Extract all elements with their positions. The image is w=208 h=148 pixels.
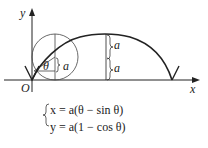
theta-label: θ xyxy=(43,59,49,73)
equation-y: y = a(1 − cos θ) xyxy=(50,120,126,134)
x-axis-label: x xyxy=(189,82,196,96)
parametric-equations: x = a(θ − sin θ) y = a(1 − cos θ) xyxy=(43,103,126,134)
equation-x: x = a(θ − sin θ) xyxy=(50,103,123,117)
cycloid-diagram: y x O θ a a a x = a(θ − sin θ) y = a(1 −… xyxy=(0,0,208,148)
brace-upper xyxy=(107,35,113,59)
upper-height-label: a xyxy=(114,38,120,52)
equation-brace xyxy=(43,104,49,126)
brace-small xyxy=(56,58,60,72)
origin-label: O xyxy=(21,81,30,95)
radius-label: a xyxy=(63,59,69,73)
lower-height-label: a xyxy=(114,61,120,75)
cycloid-curve xyxy=(32,34,172,80)
brace-lower xyxy=(107,58,113,80)
right-cusp xyxy=(172,66,179,80)
y-axis-label: y xyxy=(19,6,26,20)
